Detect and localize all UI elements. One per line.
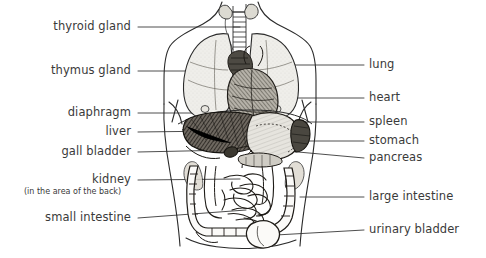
label-spleen: spleen [369, 116, 408, 128]
label-kidney-note: (in the area of the back) [24, 188, 121, 196]
label-large-intestine: large intestine [369, 191, 453, 203]
label-stomach: stomach [369, 135, 419, 147]
spleen [291, 120, 310, 152]
label-liver: liver [106, 126, 132, 138]
label-diaphragm: diaphragm [68, 107, 131, 119]
label-heart: heart [369, 92, 400, 104]
urinary-bladder [246, 221, 279, 248]
label-gall-bladder: gall bladder [61, 146, 131, 158]
label-small-intestine: small intestine [45, 212, 131, 224]
label-thymus-gland: thymus gland [51, 65, 131, 77]
label-lung: lung [369, 59, 394, 71]
label-thyroid-gland: thyroid gland [53, 21, 131, 33]
label-pancreas: pancreas [369, 152, 422, 164]
label-kidney: kidney [92, 174, 131, 186]
leader-urinary-bladder [276, 230, 364, 235]
label-urinary-bladder: urinary bladder [369, 224, 459, 236]
anatomy-diagram: thyroid gland thymus gland diaphragm liv… [0, 0, 486, 258]
